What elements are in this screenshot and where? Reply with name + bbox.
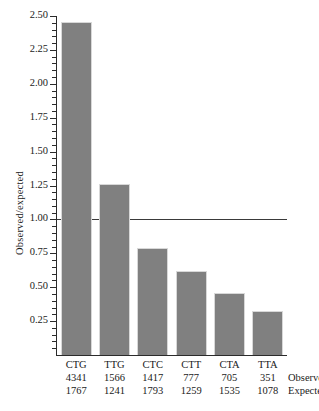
y-tick-major [50, 152, 56, 153]
bar-chart-figure: Observed/expected 0.250.500.751.001.251.… [0, 0, 319, 411]
row-label-observed: Observed [288, 371, 319, 384]
category-label: CTG [57, 358, 95, 371]
y-tick-minor [52, 91, 56, 92]
y-tick-label: 0.25 [2, 315, 48, 326]
y-tick-minor [52, 341, 56, 342]
y-tick-minor [52, 172, 56, 173]
y-tick-major [50, 186, 56, 187]
y-tick-minor [52, 301, 56, 302]
y-tick-minor [52, 240, 56, 241]
y-tick-label: 1.25 [2, 180, 48, 191]
y-tick-major [50, 219, 56, 220]
x-axis-line [56, 355, 287, 356]
expected-value: 1241 [95, 384, 133, 397]
observed-value: 777 [172, 371, 210, 384]
y-tick-minor [52, 158, 56, 159]
y-tick-minor [52, 57, 56, 58]
y-tick-minor [52, 70, 56, 71]
bar-ctc [137, 248, 168, 355]
y-tick-label: 1.75 [2, 112, 48, 123]
y-tick-minor [52, 30, 56, 31]
y-tick-major [50, 287, 56, 288]
category-label: TTG [95, 358, 133, 371]
row-category-names: CTGTTGCTCCTTCTATTA [57, 358, 319, 371]
y-tick-minor [52, 280, 56, 281]
plot-area [57, 16, 287, 355]
y-tick-major [50, 50, 56, 51]
expected-value: 1793 [134, 384, 172, 397]
bar-ttg [99, 184, 130, 355]
y-tick-major [50, 16, 56, 17]
y-tick-label: 0.50 [2, 281, 48, 292]
bar-ctg [61, 22, 92, 355]
y-tick-minor [52, 206, 56, 207]
y-tick-major [50, 84, 56, 85]
y-tick-minor [52, 111, 56, 112]
y-tick-minor [52, 314, 56, 315]
y-tick-minor [52, 131, 56, 132]
y-tick-label: 0.75 [2, 247, 48, 258]
expected-value: 1767 [57, 384, 95, 397]
y-tick-minor [52, 124, 56, 125]
row-observed-counts: 434115661417777705351Observed [57, 371, 319, 384]
y-tick-minor [52, 233, 56, 234]
y-tick-minor [52, 192, 56, 193]
y-tick-minor [52, 179, 56, 180]
observed-value: 351 [249, 371, 287, 384]
y-tick-minor [52, 267, 56, 268]
y-tick-label: 1.50 [2, 146, 48, 157]
bar-ctt [176, 271, 207, 355]
observed-value: 705 [210, 371, 248, 384]
y-tick-label: 2.25 [2, 44, 48, 55]
y-tick-minor [52, 226, 56, 227]
y-tick-minor [52, 23, 56, 24]
y-tick-minor [52, 97, 56, 98]
y-tick-minor [52, 145, 56, 146]
bar-cta [214, 293, 245, 355]
y-tick-minor [52, 274, 56, 275]
y-tick-minor [52, 104, 56, 105]
category-label: CTC [134, 358, 172, 371]
y-tick-minor [52, 36, 56, 37]
observed-value: 1566 [95, 371, 133, 384]
y-tick-major [50, 118, 56, 119]
y-tick-label: 1.00 [2, 213, 48, 224]
y-tick-minor [52, 77, 56, 78]
y-tick-minor [52, 247, 56, 248]
y-tick-label: 2.00 [2, 78, 48, 89]
y-tick-minor [52, 294, 56, 295]
y-tick-minor [52, 199, 56, 200]
bar-tta [252, 311, 283, 355]
y-tick-minor [52, 308, 56, 309]
y-tick-minor [52, 335, 56, 336]
category-label: CTT [172, 358, 210, 371]
expected-value: 1078 [249, 384, 287, 397]
observed-value: 1417 [134, 371, 172, 384]
expected-value: 1535 [210, 384, 248, 397]
y-tick-minor [52, 213, 56, 214]
y-tick-minor [52, 138, 56, 139]
category-label: CTA [210, 358, 248, 371]
y-tick-minor [52, 165, 56, 166]
category-label-table: CTGTTGCTCCTTCTATTA 434115661417777705351… [57, 358, 319, 397]
y-tick-major [50, 253, 56, 254]
y-tick-major [50, 321, 56, 322]
y-tick-minor [52, 260, 56, 261]
row-label-expected: Expected [288, 384, 319, 397]
y-tick-minor [52, 348, 56, 349]
y-tick-minor [52, 328, 56, 329]
expected-value: 1259 [172, 384, 210, 397]
y-tick-label: 2.50 [2, 10, 48, 21]
y-tick-minor [52, 63, 56, 64]
observed-value: 4341 [57, 371, 95, 384]
category-label: TTA [249, 358, 287, 371]
row-expected-counts: 176712411793125915351078Expected [57, 384, 319, 397]
y-tick-minor [52, 43, 56, 44]
